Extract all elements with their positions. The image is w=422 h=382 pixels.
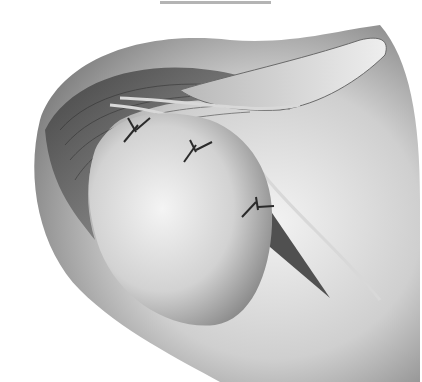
surgical-illustration xyxy=(0,0,422,382)
illustration-canvas xyxy=(0,0,422,382)
